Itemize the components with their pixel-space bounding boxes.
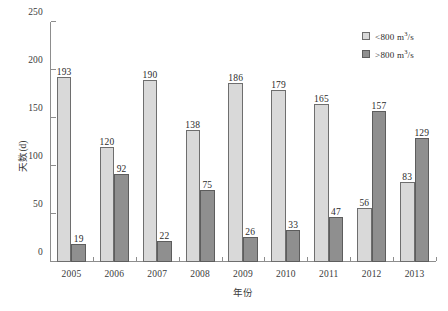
legend-label: <800 m3/s — [375, 30, 414, 42]
bar[interactable]: 75 — [200, 190, 215, 262]
bar[interactable]: 120 — [100, 147, 115, 262]
bar[interactable]: 186 — [228, 83, 243, 262]
bar-value-label: 26 — [245, 227, 255, 237]
bar-value-label: 129 — [414, 128, 429, 138]
bar-chart: 天数(d) 050100150200250 200520062007200820… — [0, 0, 448, 311]
bar[interactable]: 47 — [329, 217, 344, 262]
x-axis-tick-label: 2008 — [190, 269, 210, 279]
y-axis-tick-label: 200 — [28, 55, 43, 65]
bar-value-label: 193 — [57, 67, 72, 77]
bar[interactable]: 157 — [372, 111, 387, 262]
bar-value-label: 56 — [359, 198, 369, 208]
bar-value-label: 75 — [202, 180, 212, 190]
bar-group: 12092 — [93, 22, 136, 262]
bar[interactable]: 129 — [415, 138, 430, 262]
x-axis-tick-label: 2005 — [62, 269, 82, 279]
bar-value-label: 47 — [331, 207, 341, 217]
chart-legend: <800 m3/s>800 m3/s — [362, 30, 414, 60]
y-axis-tick-label: 100 — [28, 151, 43, 161]
x-axis-tick-label: 2010 — [276, 269, 296, 279]
bar[interactable]: 19 — [71, 244, 86, 262]
x-axis-tick-label: 2007 — [147, 269, 167, 279]
x-axis-title: 年份 — [50, 285, 436, 299]
y-axis-tick-label: 50 — [33, 199, 43, 209]
x-axis-tick-label: 2009 — [233, 269, 253, 279]
bar-group: 19022 — [136, 22, 179, 262]
y-axis-title: 天数(d) — [15, 140, 29, 171]
bar-group: 19319 — [50, 22, 93, 262]
bar[interactable]: 138 — [186, 130, 201, 262]
x-axis-tick-label: 2006 — [104, 269, 124, 279]
bar-value-label: 120 — [100, 137, 115, 147]
bar-value-label: 190 — [142, 70, 157, 80]
bar[interactable]: 190 — [143, 80, 158, 262]
bar-group: 13875 — [179, 22, 222, 262]
x-axis-tick — [436, 257, 437, 261]
x-axis-tick-label: 2012 — [362, 269, 382, 279]
bar[interactable]: 83 — [400, 182, 415, 262]
bar-group: 16547 — [307, 22, 350, 262]
bar-value-label: 157 — [372, 101, 387, 111]
bar-value-label: 22 — [160, 231, 170, 241]
bar[interactable]: 193 — [57, 77, 72, 262]
bar[interactable]: 22 — [157, 241, 172, 262]
bar-value-label: 92 — [117, 164, 127, 174]
bar-value-label: 138 — [185, 120, 200, 130]
legend-label: >800 m3/s — [375, 48, 414, 60]
bar-value-label: 165 — [314, 94, 329, 104]
y-axis-tick-label: 150 — [28, 103, 43, 113]
bar[interactable]: 26 — [243, 237, 258, 262]
bar-value-label: 33 — [288, 220, 298, 230]
bar[interactable]: 33 — [286, 230, 301, 262]
y-axis-tick-label: 250 — [28, 7, 43, 17]
bar[interactable]: 56 — [357, 208, 372, 262]
bar[interactable]: 165 — [314, 104, 329, 262]
x-axis-tick-label: 2013 — [405, 269, 425, 279]
bar-group: 17933 — [264, 22, 307, 262]
bar-value-label: 83 — [402, 172, 412, 182]
y-axis-tick-label: 0 — [38, 247, 43, 257]
legend-swatch — [362, 32, 370, 40]
legend-item[interactable]: >800 m3/s — [362, 48, 414, 60]
bar-group: 18626 — [222, 22, 265, 262]
bar[interactable]: 179 — [271, 90, 286, 262]
bar[interactable]: 92 — [114, 174, 129, 262]
bar-value-label: 19 — [74, 234, 84, 244]
legend-item[interactable]: <800 m3/s — [362, 30, 414, 42]
bar-value-label: 179 — [271, 80, 286, 90]
x-axis-tick-label: 2011 — [319, 269, 338, 279]
bar-value-label: 186 — [228, 73, 243, 83]
legend-swatch — [362, 50, 370, 58]
